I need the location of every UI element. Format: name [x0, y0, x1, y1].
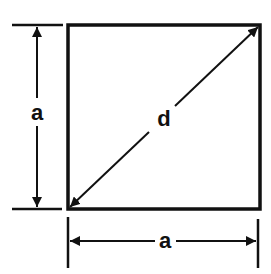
side-label-vertical: a: [31, 100, 44, 125]
diagonal-label: d: [157, 106, 170, 131]
square-diagonal-diagram: a a d: [0, 0, 271, 274]
side-label-horizontal: a: [159, 228, 172, 253]
diagonal-arrow-upper: [175, 27, 258, 106]
diagonal-arrow-lower: [70, 132, 149, 207]
